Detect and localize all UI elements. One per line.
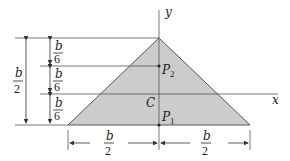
svg-text:6: 6 [54, 109, 60, 123]
svg-text:b: b [55, 96, 63, 110]
svg-text:2: 2 [202, 144, 208, 158]
x-axis-label: x [272, 93, 279, 107]
diagram-canvas: y x C P2 P1 b 2 b 6 b 6 b 6 b 2 b 2 [0, 0, 290, 161]
base-right-fraction-label: b 2 [201, 129, 211, 158]
triangle-diagram: y x C P2 P1 b 2 b 6 b 6 b 6 b 2 b 2 [0, 0, 290, 161]
svg-text:b: b [203, 129, 211, 143]
p1-point [157, 123, 160, 126]
height-fraction-label: b 2 [13, 66, 23, 96]
svg-text:6: 6 [54, 52, 60, 66]
svg-text:b: b [55, 39, 63, 53]
segment-fraction-label-3: b 6 [53, 96, 63, 123]
segment-fraction-label-2: b 6 [53, 67, 63, 94]
svg-text:2: 2 [105, 144, 111, 158]
y-axis-label: y [164, 5, 172, 19]
segment-fraction-label-1: b 6 [53, 39, 63, 66]
svg-text:6: 6 [54, 80, 60, 94]
svg-text:b: b [106, 129, 114, 143]
p2-point [157, 64, 160, 67]
centroid-label: C [146, 96, 155, 110]
base-left-fraction-label: b 2 [104, 129, 114, 158]
svg-text:b: b [15, 66, 23, 80]
svg-text:b: b [55, 67, 63, 81]
svg-text:2: 2 [14, 82, 20, 96]
